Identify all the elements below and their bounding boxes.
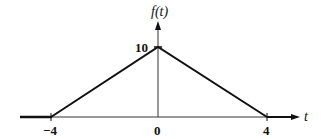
x-axis-arrow-icon <box>291 114 300 120</box>
ticks <box>51 47 267 121</box>
triangle-pulse-plot: f(t) t 10 −4 0 4 <box>0 0 321 139</box>
tick-label-neg4: −4 <box>43 123 57 138</box>
triangle-curve <box>51 47 267 117</box>
y-axis-arrow-icon <box>155 21 161 30</box>
tick-label-0: 0 <box>154 123 161 138</box>
tick-label-4: 4 <box>263 123 270 138</box>
x-axis-label: t <box>304 109 309 124</box>
y-axis-label: f(t) <box>151 4 168 20</box>
peak-value-label: 10 <box>135 40 148 55</box>
y-axis <box>155 21 161 117</box>
x-axis <box>20 114 300 120</box>
